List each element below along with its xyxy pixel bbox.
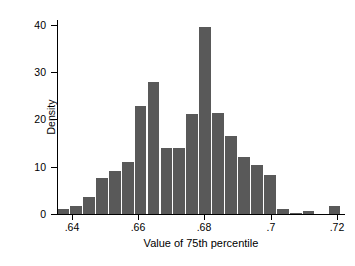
- x-tick-mark: [204, 215, 205, 220]
- histogram-bar: [251, 165, 263, 214]
- histogram-bar: [329, 206, 341, 214]
- histogram-bar: [109, 171, 121, 214]
- x-tick-label: .64: [65, 222, 80, 233]
- histogram-bar: [186, 114, 198, 214]
- histogram-bar: [96, 178, 108, 214]
- histogram-bar: [122, 162, 134, 214]
- y-axis-title-wrap: Density: [8, 110, 108, 124]
- histogram-bar: [161, 148, 173, 214]
- histogram-bar: [83, 197, 95, 214]
- x-tick-mark: [337, 215, 338, 220]
- y-tick-mark: [51, 214, 57, 215]
- y-tick-label: 40: [34, 20, 46, 31]
- x-tick-label: .7: [267, 222, 276, 233]
- x-tick-mark: [72, 215, 73, 220]
- x-tick-mark: [271, 215, 272, 220]
- histogram-bar: [264, 175, 276, 214]
- histogram-bar: [212, 113, 224, 214]
- x-axis-title: Value of 75th percentile: [57, 238, 345, 249]
- y-tick-label: 0: [40, 209, 46, 220]
- x-tick-label: .72: [330, 222, 345, 233]
- histogram-bar: [225, 136, 237, 214]
- y-axis-title: Density: [45, 67, 59, 167]
- y-tick-mark: [51, 167, 57, 168]
- histogram-bar: [135, 106, 147, 214]
- histogram-bar: [199, 27, 211, 214]
- x-tick-label: .66: [131, 222, 146, 233]
- histogram-figure: 010203040 .64.66.68.7.72 Density Value o…: [0, 0, 355, 266]
- histogram-bar: [173, 148, 185, 214]
- x-tick-mark: [138, 215, 139, 220]
- x-tick-label: .68: [197, 222, 212, 233]
- histogram-bar: [148, 82, 160, 214]
- y-tick-mark: [51, 25, 57, 26]
- histogram-bar: [238, 157, 250, 214]
- histogram-bar: [70, 206, 82, 214]
- x-axis-line: [57, 214, 345, 215]
